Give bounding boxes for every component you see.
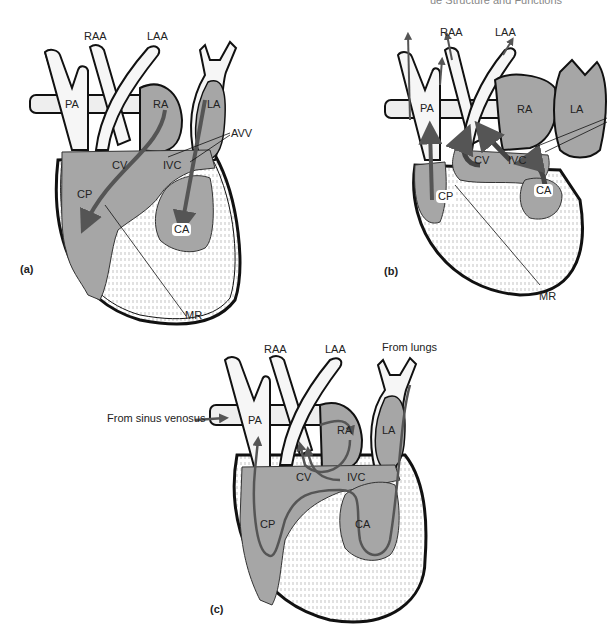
label-ca: CA	[355, 519, 370, 530]
label-ra: RA	[153, 99, 168, 110]
label-cp: CP	[260, 519, 275, 530]
label-raa: RAA	[264, 344, 287, 355]
label-la: LA	[570, 104, 583, 115]
label-ca: CA	[172, 223, 191, 236]
label-ivc: IVC	[508, 155, 526, 166]
label-ca: CA	[534, 184, 553, 197]
label-pa: PA	[420, 103, 434, 114]
label-cv: CV	[296, 472, 311, 483]
label-cv: CV	[474, 155, 489, 166]
label-cp: CP	[77, 189, 92, 200]
panel-b-diagram	[385, 35, 607, 295]
label-ivc: IVC	[163, 160, 181, 171]
label-laa: LAA	[325, 344, 346, 355]
label-la: LA	[207, 99, 220, 110]
label-cp: CP	[436, 190, 455, 203]
label-pa: PA	[65, 99, 79, 110]
panel-c-diagram	[195, 356, 426, 622]
label-pa: PA	[248, 415, 262, 426]
label-laa: LAA	[147, 31, 168, 42]
label-la: LA	[382, 425, 395, 436]
label-raa: RAA	[440, 27, 463, 38]
label-avv: AVV	[231, 128, 252, 139]
label-laa: LAA	[495, 27, 516, 38]
panel-label-b: (b)	[384, 266, 398, 277]
label-from-sinus-venosus: From sinus venosus	[107, 413, 205, 424]
label-ra: RA	[517, 104, 532, 115]
label-raa: RAA	[84, 31, 107, 42]
label-mr: MR	[539, 291, 556, 302]
label-ivc: IVC	[347, 472, 365, 483]
panel-a-diagram	[30, 42, 240, 324]
label-from-lungs: From lungs	[382, 342, 437, 353]
label-ra: RA	[337, 425, 352, 436]
label-cv: CV	[112, 160, 127, 171]
heart-diagrams	[0, 0, 607, 642]
panel-label-c: (c)	[210, 604, 223, 615]
label-mr: MR	[185, 310, 202, 321]
panel-label-a: (a)	[20, 264, 33, 275]
